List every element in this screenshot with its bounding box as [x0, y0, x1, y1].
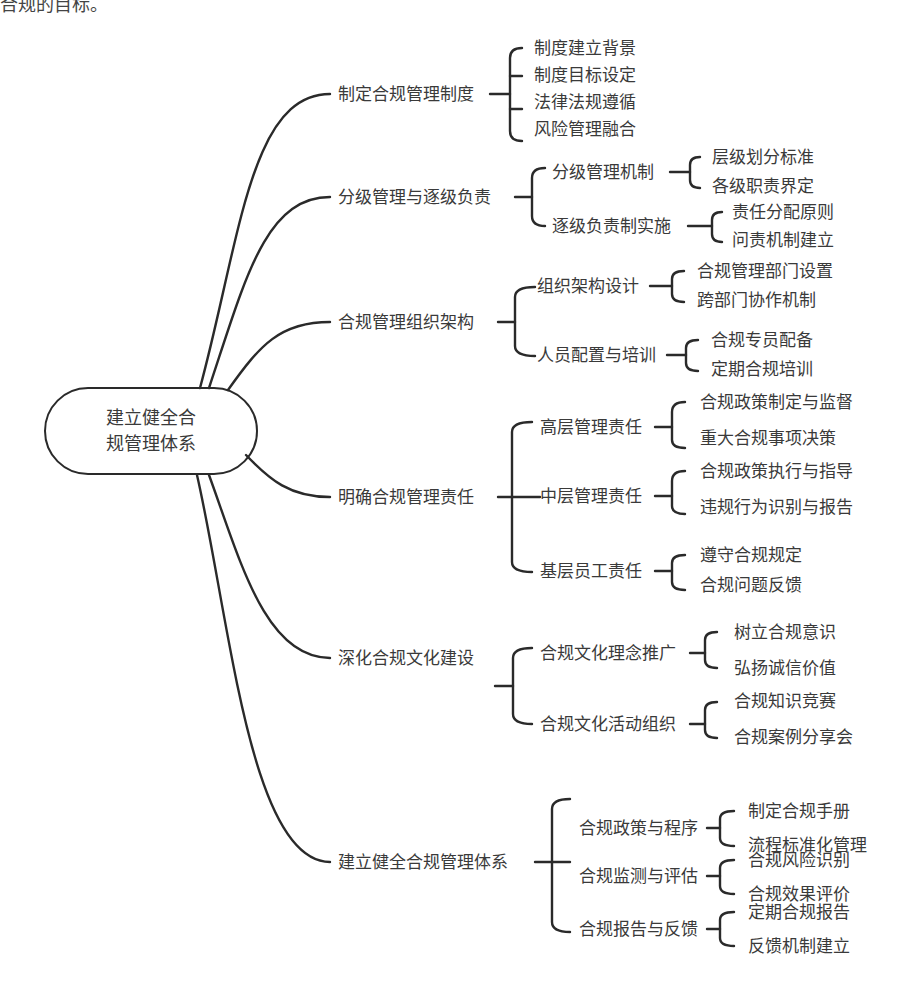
leaf-node: 合规政策制定与监督: [700, 391, 853, 413]
leaf-node: 风险管理融合: [534, 118, 636, 140]
leaf-node: 合规管理部门设置: [697, 260, 833, 282]
leaf-node: 定期合规培训: [711, 358, 813, 380]
leaf-node: 制度目标设定: [534, 64, 636, 86]
leaf-node: 反馈机制建立: [748, 935, 850, 957]
leaf-node: 遵守合规规定: [700, 544, 802, 566]
sub-branch-node: 合规政策与程序: [579, 817, 698, 839]
sub-branch-node: 合规监测与评估: [579, 865, 698, 887]
branch-2-node: 分级管理与逐级负责: [338, 186, 491, 208]
sub-branch-node: 合规文化理念推广: [540, 642, 676, 664]
sub-branch-node: 高层管理责任: [540, 416, 642, 438]
leaf-node: 弘扬诚信价值: [734, 657, 836, 679]
leaf-node: 跨部门协作机制: [697, 289, 816, 311]
leaf-node: 合规风险识别: [748, 849, 850, 871]
leaf-node: 合规专员配备: [711, 329, 813, 351]
sub-branch-node: 逐级负责制实施: [552, 215, 671, 237]
leaf-node: 问责机制建立: [732, 229, 834, 251]
leaf-node: 合规知识竞赛: [734, 690, 836, 712]
leaf-node: 定期合规报告: [748, 901, 850, 923]
branch-4-node: 明确合规管理责任: [338, 486, 474, 508]
root-node: 建立健全合 规管理体系: [44, 387, 258, 475]
leaf-node: 法律法规遵循: [534, 91, 636, 113]
leaf-node: 各级职责界定: [712, 175, 814, 197]
root-label-line1: 建立健全合: [106, 405, 196, 431]
root-label-line2: 规管理体系: [106, 431, 196, 457]
leaf-node: 合规政策执行与指导: [700, 460, 853, 482]
leaf-node: 重大合规事项决策: [700, 427, 836, 449]
branch-6-node: 建立健全合规管理体系: [338, 851, 508, 873]
sub-branch-node: 合规报告与反馈: [579, 918, 698, 940]
sub-branch-node: 组织架构设计: [537, 275, 639, 297]
sub-branch-node: 基层员工责任: [540, 560, 642, 582]
sub-branch-node: 中层管理责任: [540, 485, 642, 507]
leaf-node: 树立合规意识: [734, 621, 836, 643]
leaf-node: 违规行为识别与报告: [700, 496, 853, 518]
sub-branch-node: 人员配置与培训: [537, 344, 656, 366]
leaf-node: 层级划分标准: [712, 146, 814, 168]
leaf-node: 制定合规手册: [748, 800, 850, 822]
sub-branch-node: 分级管理机制: [552, 161, 654, 183]
leaf-node: 责任分配原则: [732, 201, 834, 223]
branch-3-node: 合规管理组织架构: [338, 311, 474, 333]
leaf-node: 制度建立背景: [534, 37, 636, 59]
branch-5-node: 深化合规文化建设: [338, 647, 474, 669]
sub-branch-node: 合规文化活动组织: [540, 713, 676, 735]
leaf-node: 合规案例分享会: [734, 726, 853, 748]
leaf-node: 合规问题反馈: [700, 574, 802, 596]
branch-1-node: 制定合规管理制度: [338, 83, 474, 105]
